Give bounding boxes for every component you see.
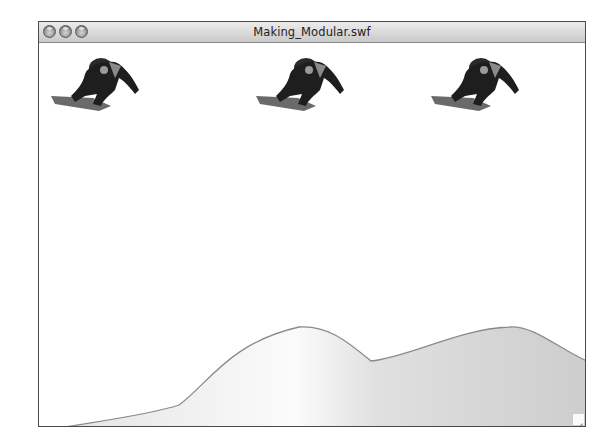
terrain-hills	[59, 327, 585, 426]
snowboarder-sprite-3	[429, 56, 521, 114]
snowboarder-sprite-1	[49, 56, 141, 114]
snowboarder-icon	[429, 56, 521, 114]
resize-grip[interactable]	[572, 413, 584, 425]
snowboarder-icon	[49, 56, 141, 114]
snowboarder-sprite-2	[254, 56, 346, 114]
window-title: Making_Modular.swf	[39, 25, 585, 39]
title-bar[interactable]: Making_Modular.swf	[39, 22, 585, 43]
snowboarder-icon	[254, 56, 346, 114]
swf-stage[interactable]	[39, 43, 585, 426]
flash-player-window: Making_Modular.swf	[38, 21, 586, 427]
